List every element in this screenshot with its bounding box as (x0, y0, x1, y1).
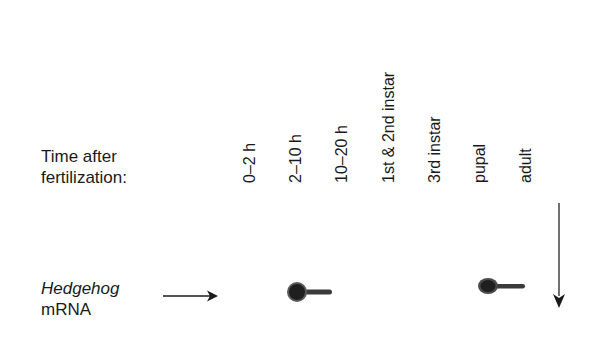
blot-marks (0, 0, 594, 339)
down-arrow-icon (553, 203, 565, 308)
band-2-10h (287, 282, 332, 302)
right-arrow-icon (163, 291, 218, 302)
band-pupal (478, 278, 525, 294)
